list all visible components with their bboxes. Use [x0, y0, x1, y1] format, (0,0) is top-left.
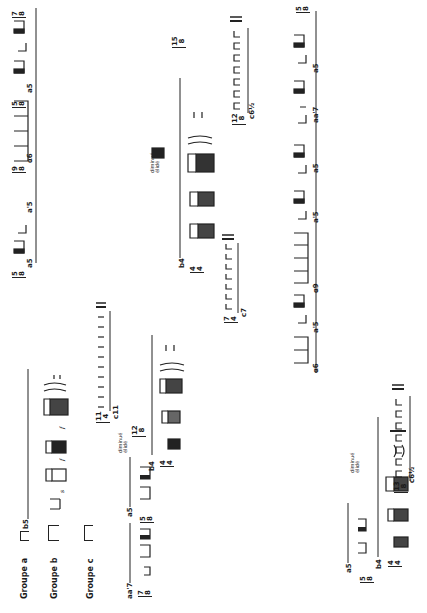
- group-b-bracket: [48, 525, 59, 541]
- b4-label-1: b4: [148, 461, 156, 471]
- time-sig-7-4: 74: [224, 316, 238, 323]
- b5-label: b5: [22, 519, 30, 529]
- a-row-top-rhythm: [10, 8, 50, 273]
- a-row-rhythm-0: [128, 523, 152, 583]
- time-sig-12-8: 128: [132, 425, 146, 437]
- diminue-label: diminuéélidé: [118, 433, 128, 453]
- b4-label-3: b4: [375, 559, 383, 569]
- a-row-label-0: aa'7: [126, 583, 134, 599]
- time-sig-11-4: 114: [96, 411, 110, 423]
- group-a-bracket: [20, 531, 29, 541]
- time-sig-4-4-c: 44: [388, 560, 402, 567]
- time-sig-5-8: 58: [140, 516, 154, 523]
- time-sig-4-4-b: 44: [190, 266, 204, 273]
- a5-label-1: a5: [126, 507, 134, 517]
- time-sig-15-8: 158: [172, 36, 186, 48]
- group-b-label: Groupe b: [50, 558, 59, 599]
- c6-half-rhythm-2: [392, 381, 414, 481]
- group-a-label: Groupe a: [20, 558, 29, 599]
- a5-bottom-rhythm: [346, 503, 368, 563]
- c11-rhythm: [96, 301, 116, 411]
- b5-rhythm: s f f: [24, 369, 74, 519]
- group-c-label: Groupe c: [86, 559, 95, 599]
- time-sig-4-4: 44: [160, 460, 174, 467]
- dynamic-s: s: [58, 490, 65, 493]
- time-sig-7-8: 78: [138, 590, 152, 597]
- svg-text:f: f: [58, 425, 66, 430]
- time-sig-12-8-c: 128: [232, 113, 246, 125]
- a5-bottom: a5: [345, 563, 353, 573]
- diminue-label-3: diminuéélidé: [350, 453, 360, 473]
- a-row-right-rhythm: [290, 8, 330, 383]
- c7-rhythm: [222, 233, 242, 313]
- b4-rhythm-2: [178, 78, 228, 258]
- b4-label-2: b4: [178, 258, 186, 268]
- group-c-bracket: [84, 525, 93, 541]
- b4-rhythm-1: [150, 335, 190, 455]
- c6-half-rhythm: [230, 13, 252, 113]
- time-sig-5-8-bottom: 58: [360, 576, 374, 583]
- time-sig-13-8: 138: [394, 481, 408, 493]
- svg-text:f: f: [58, 457, 66, 462]
- score-page: Groupe a Groupe b Groupe c b5 s f f aa'7…: [0, 0, 427, 613]
